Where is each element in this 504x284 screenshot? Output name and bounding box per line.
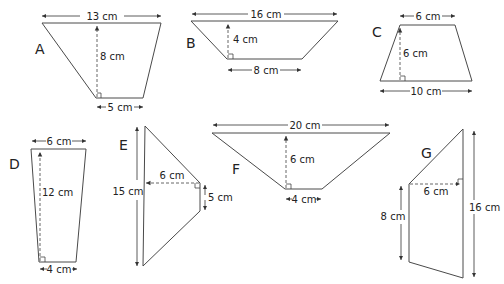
shape-c: 6 cm 6 cm 10 cm C bbox=[372, 11, 472, 97]
label-d-top: 6 cm bbox=[47, 136, 72, 147]
label-g-long-side: 16 cm bbox=[469, 202, 500, 213]
label-b-height: 4 cm bbox=[233, 34, 258, 45]
label-a-top: 13 cm bbox=[86, 11, 117, 22]
label-d-bottom: 4 cm bbox=[47, 264, 72, 275]
shape-letter-g: G bbox=[421, 145, 432, 161]
shape-letter-b: B bbox=[186, 35, 196, 51]
shape-b: 16 cm 4 cm 8 cm B bbox=[186, 9, 338, 76]
label-e-short-side: 5 cm bbox=[208, 192, 233, 203]
shape-letter-a: A bbox=[35, 41, 45, 57]
shape-d: 6 cm 12 cm 4 cm D bbox=[9, 136, 86, 275]
label-d-height: 12 cm bbox=[42, 187, 73, 198]
shape-f: 20 cm 6 cm 4 cm F bbox=[212, 120, 390, 205]
label-a-height: 8 cm bbox=[100, 51, 125, 62]
label-e-height: 6 cm bbox=[160, 170, 185, 181]
label-f-bottom: 4 cm bbox=[292, 194, 317, 205]
right-angle-icon bbox=[458, 179, 463, 184]
trapezium-diagrams: 13 cm 8 cm 5 cm A 16 cm 4 cm 8 cm B 6 cm… bbox=[0, 0, 504, 284]
shape-e: 6 cm 15 cm 5 cm E bbox=[112, 126, 232, 266]
label-a-bottom: 5 cm bbox=[108, 102, 133, 113]
right-angle-icon bbox=[97, 93, 101, 98]
label-c-height: 6 cm bbox=[403, 48, 428, 59]
shape-letter-c: C bbox=[372, 24, 382, 40]
label-e-long-side: 15 cm bbox=[112, 186, 143, 197]
right-angle-icon bbox=[228, 54, 233, 59]
shape-letter-e: E bbox=[119, 137, 128, 153]
right-angle-icon bbox=[40, 257, 45, 262]
label-g-height: 6 cm bbox=[424, 186, 449, 197]
label-b-bottom: 8 cm bbox=[254, 65, 279, 76]
label-f-height: 6 cm bbox=[290, 154, 315, 165]
trapezium-e-outline bbox=[143, 126, 200, 266]
shape-letter-d: D bbox=[9, 156, 20, 172]
trapezium-b-outline bbox=[191, 21, 338, 59]
label-b-top: 16 cm bbox=[250, 9, 281, 20]
shape-a: 13 cm 8 cm 5 cm A bbox=[35, 11, 161, 113]
label-g-short-side: 8 cm bbox=[381, 211, 406, 222]
label-c-bottom: 10 cm bbox=[410, 86, 441, 97]
right-angle-icon bbox=[400, 76, 405, 81]
shape-letter-f: F bbox=[232, 161, 240, 177]
label-c-top: 6 cm bbox=[416, 11, 441, 22]
shape-g: 6 cm 8 cm 16 cm G bbox=[381, 129, 501, 278]
trapezium-d-outline bbox=[31, 149, 86, 262]
label-f-top: 20 cm bbox=[289, 120, 320, 131]
trapezium-g-outline bbox=[409, 129, 463, 278]
right-angle-icon bbox=[195, 183, 200, 188]
right-angle-icon bbox=[286, 184, 291, 189]
